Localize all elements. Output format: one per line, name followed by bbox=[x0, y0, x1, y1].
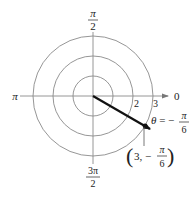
radius-label-3: 3 bbox=[153, 98, 158, 109]
point-label-r: 3, − bbox=[134, 150, 151, 162]
point-label-num: π bbox=[159, 144, 165, 155]
theta-annotation-den: 6 bbox=[182, 124, 187, 135]
point-marker bbox=[143, 124, 148, 129]
point-label-den: 6 bbox=[160, 158, 165, 169]
label-pi: π bbox=[12, 90, 18, 102]
radius-label-2: 2 bbox=[134, 98, 139, 109]
label-pi-over-2-num: π bbox=[90, 7, 96, 19]
label-pi-over-2-den: 2 bbox=[90, 20, 96, 32]
polar-diagram: π 2 π 0 3π 2 2 3 θ = − π 6 ( 3, − π 6 ) bbox=[0, 0, 195, 197]
theta-annotation-prefix: θ = − bbox=[151, 114, 174, 126]
label-zero: 0 bbox=[174, 90, 180, 102]
label-3pi-over-2-num: 3π bbox=[88, 165, 98, 176]
point-label-open-paren: ( bbox=[126, 143, 133, 168]
theta-annotation-num: π bbox=[181, 110, 187, 121]
label-3pi-over-2-den: 2 bbox=[91, 178, 96, 189]
point-label-close-paren: ) bbox=[167, 143, 174, 168]
